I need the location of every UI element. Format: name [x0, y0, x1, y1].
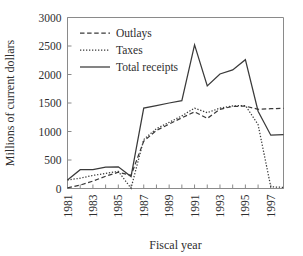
x-axis: 198119831985198719891991199319951997 — [62, 185, 284, 218]
y-axis-title: Millions of current dollars — [3, 40, 17, 167]
x-tick-label: 1981 — [62, 194, 74, 217]
frame-border — [68, 18, 284, 189]
y-tick-label: 2000 — [39, 69, 62, 81]
legend-label: Taxes — [116, 44, 143, 56]
chart-figure: 0500100015002000250030001981198319851987… — [0, 0, 303, 256]
x-tick-label: 1991 — [189, 194, 201, 217]
plot-frame — [68, 18, 284, 189]
x-tick-label: 1983 — [87, 194, 99, 217]
legend-label: Outlays — [116, 27, 152, 40]
y-axis: 050010001500200025003000 — [39, 12, 72, 195]
y-tick-label: 2500 — [39, 40, 62, 52]
x-tick-label: 1997 — [265, 194, 277, 217]
y-tick-label: 3000 — [39, 12, 62, 24]
x-tick-label: 1989 — [163, 194, 175, 217]
y-tick-label: 1500 — [39, 97, 62, 109]
series-outlays — [68, 106, 284, 188]
x-axis-title: Fiscal year — [149, 238, 201, 252]
y-tick-label: 0 — [56, 183, 62, 195]
x-tick-label: 1995 — [239, 194, 251, 217]
line-chart: 0500100015002000250030001981198319851987… — [0, 0, 303, 256]
y-tick-label: 1000 — [39, 126, 62, 138]
x-tick-label: 1985 — [112, 194, 124, 217]
legend-label: Total receipts — [116, 61, 179, 74]
chart-legend: OutlaysTaxesTotal receipts — [80, 27, 179, 74]
x-tick-label: 1993 — [214, 194, 226, 217]
series-taxes — [68, 106, 284, 189]
y-tick-label: 500 — [44, 154, 62, 166]
x-tick-label: 1987 — [138, 194, 150, 217]
